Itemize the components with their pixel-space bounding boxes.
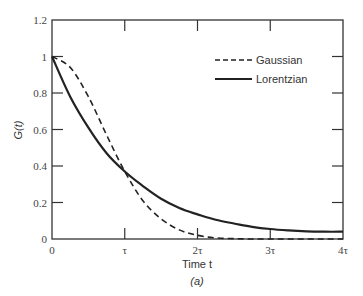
chart: 00.20.40.60.811.2 0τ2τ3τ4τ Gaussian Lore… [0,0,363,296]
legend-gaussian-label: Gaussian [256,54,302,66]
x-tick-label: 0 [49,244,55,256]
x-tick-label: 3τ [265,244,276,256]
x-tick-label: τ [123,244,128,256]
legend-lorentzian-label: Lorentzian [256,73,307,85]
x-tick-label: 2τ [193,244,204,256]
y-tick-label: 1.2 [33,14,47,26]
x-tick-label: 4τ [338,244,349,256]
y-tick-label: 0.4 [33,160,47,172]
figure-caption: (a) [190,275,204,287]
y-tick-label: 0 [42,233,48,245]
x-axis-label: Time t [182,258,212,270]
y-tick-label: 1 [42,51,48,63]
y-tick-label: 0.6 [33,124,47,136]
legend: Gaussian Lorentzian [215,54,307,85]
y-axis-label: G(t) [12,120,24,139]
y-tick-label: 0.8 [33,87,47,99]
plot-frame [52,20,343,239]
y-tick-label: 0.2 [33,197,47,209]
